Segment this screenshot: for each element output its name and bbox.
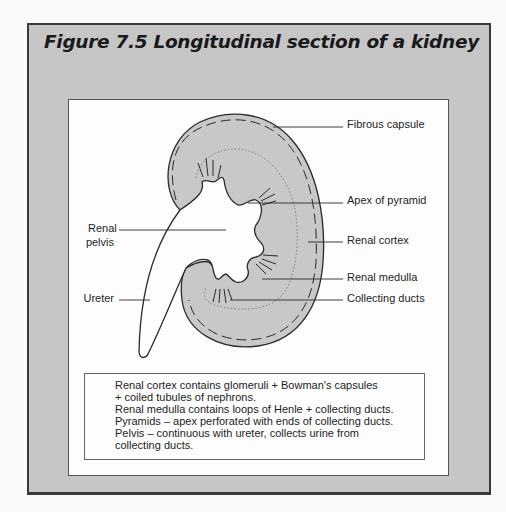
label-collecting-ducts: Collecting ducts: [347, 292, 425, 304]
notes-line: Pyramids – apex perforated with ends of …: [115, 415, 394, 427]
label-renal-pelvis-line1: Renal: [88, 222, 114, 234]
label-renal-medulla: Renal medulla: [347, 271, 417, 283]
notes-line: Renal cortex contains glomeruli + Bowman…: [115, 379, 394, 391]
notes-text: Renal cortex contains glomeruli + Bowman…: [115, 379, 394, 452]
notes-line: + coiled tubules of nephrons.: [115, 391, 394, 403]
notes-line: collecting ducts.: [115, 439, 394, 451]
label-ureter: Ureter: [80, 292, 114, 304]
label-fibrous-capsule: Fibrous capsule: [347, 118, 425, 130]
label-apex-of-pyramid: Apex of pyramid: [347, 194, 426, 206]
notes-line: Pelvis – continuous with ureter, collect…: [115, 427, 394, 439]
label-renal-cortex: Renal cortex: [347, 234, 409, 246]
notes-line: Renal medulla contains loops of Henle + …: [115, 403, 394, 415]
label-renal-pelvis-line2: pelvis: [82, 236, 114, 248]
notes-box: Renal cortex contains glomeruli + Bowman…: [84, 373, 425, 460]
